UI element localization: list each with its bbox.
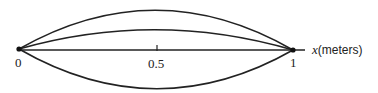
axis-unit: (meters) <box>318 43 363 57</box>
tick-label-half: 0.5 <box>148 57 164 70</box>
endpoint-right <box>290 47 295 52</box>
tick-label-1: 1 <box>290 56 297 69</box>
endpoint-left <box>16 46 21 51</box>
string-displacement-diagram: 0 0.5 1 x(meters) <box>0 0 378 93</box>
tick-label-0: 0 <box>15 56 22 69</box>
x-axis-label: x(meters) <box>312 43 362 56</box>
curve-upper-small <box>19 30 293 50</box>
